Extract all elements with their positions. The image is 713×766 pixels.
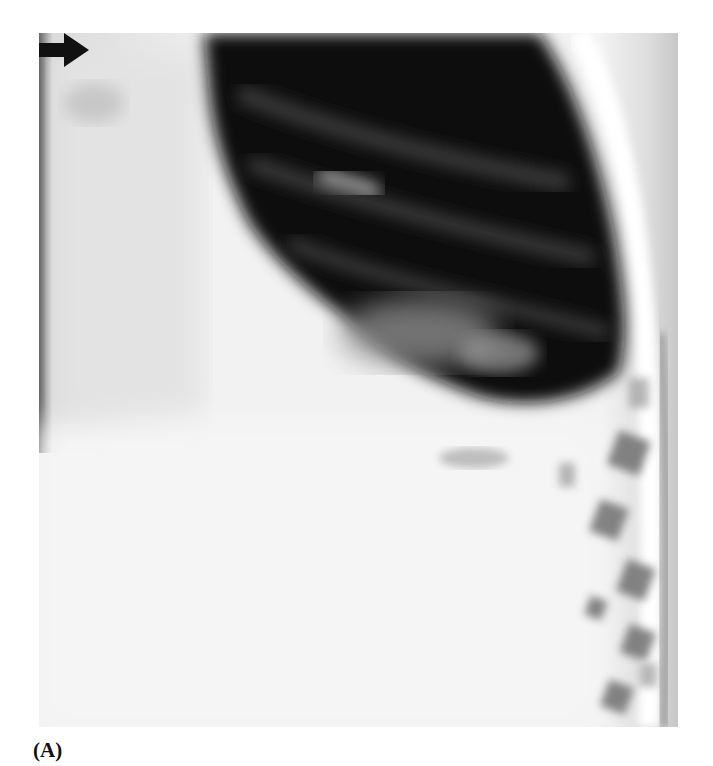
panel-label: (A) [33,738,62,763]
radiograph-drawing [39,33,678,727]
radiograph-image [39,33,678,727]
arrow-right-icon [39,33,89,67]
